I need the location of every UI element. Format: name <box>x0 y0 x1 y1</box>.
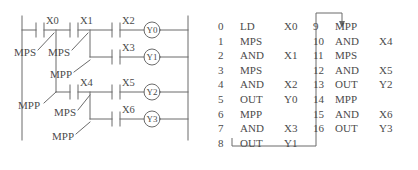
il-left-operand: Y0 <box>284 92 297 106</box>
leader-mpp-x0 <box>44 92 56 103</box>
il-left-operand: X0 <box>284 19 297 33</box>
il-right-opcode: AND <box>335 34 359 48</box>
il-left-operand: X2 <box>284 77 297 91</box>
il-right-opcode: MPP <box>335 19 357 33</box>
stack-label-mpp-x1: MPP <box>50 68 72 80</box>
il-right-opcode: OUT <box>335 77 358 91</box>
il-left-operand: X3 <box>284 121 297 135</box>
coil-label-y3: Y3 <box>147 114 158 124</box>
il-right-step-number: 9 <box>313 19 329 33</box>
leader-mps-x1 <box>72 33 88 50</box>
il-left-step-number: 8 <box>218 136 234 150</box>
il-right-step-number: 16 <box>313 121 329 135</box>
il-right-step-number: 12 <box>313 63 329 77</box>
il-right-operand: Y2 <box>379 77 392 91</box>
coil-label-y0: Y0 <box>147 25 158 35</box>
il-left-step-number: 5 <box>218 92 234 106</box>
contact-label-x1: X1 <box>80 15 93 26</box>
il-left-opcode: MPP <box>240 107 262 121</box>
contact-label-x2: X2 <box>122 15 135 26</box>
il-right-step-number: 15 <box>313 107 329 121</box>
il-left-opcode: MPS <box>240 63 262 77</box>
coil-label-y1: Y1 <box>147 52 158 62</box>
coil-label-y2: Y2 <box>147 87 158 97</box>
il-right-operand: X5 <box>379 63 392 77</box>
il-left-step-number: 0 <box>218 19 234 33</box>
il-left-operand: X1 <box>284 48 297 62</box>
ladder-diagram-figure: X0 X1 X2 X3 X4 X5 X6 Y0 Y1 Y2 Y3 MPS MPS… <box>0 0 418 170</box>
il-right-operand: X4 <box>379 34 392 48</box>
leader-mpp-x1 <box>74 60 90 72</box>
il-left-step-number: 7 <box>218 121 234 135</box>
contact-label-x0: X0 <box>46 15 59 26</box>
il-right-operand: X6 <box>379 107 392 121</box>
il-right-opcode: AND <box>335 63 359 77</box>
ladder-logic-diagram: X0 X1 X2 X3 X4 X5 X6 Y0 Y1 Y2 Y3 MPS MPS… <box>0 0 210 170</box>
stack-label-mpp-x0: MPP <box>18 99 40 111</box>
il-right-opcode: MPP <box>335 92 357 106</box>
il-left-step-number: 6 <box>218 107 234 121</box>
il-right-step-number: 11 <box>313 48 329 62</box>
il-right-step-number: 14 <box>313 92 329 106</box>
contact-label-x3: X3 <box>122 42 135 53</box>
il-right-step-number: 10 <box>313 34 329 48</box>
il-left-opcode: AND <box>240 48 264 62</box>
il-left-step-number: 1 <box>218 34 234 48</box>
il-left-opcode: OUT <box>240 136 263 150</box>
stack-label-mps-x0: MPS <box>14 46 36 58</box>
il-left-step-number: 2 <box>218 48 234 62</box>
stack-label-mpp-x4: MPP <box>52 130 74 142</box>
il-left-opcode: OUT <box>240 92 263 106</box>
il-right-step-number: 13 <box>313 77 329 91</box>
il-right-operand: Y3 <box>379 121 392 135</box>
leader-mps-x4 <box>78 95 90 110</box>
il-right-opcode: OUT <box>335 121 358 135</box>
il-left-opcode: AND <box>240 77 264 91</box>
il-left-opcode: AND <box>240 121 264 135</box>
il-left-opcode: MPS <box>240 34 262 48</box>
il-left-operand: Y1 <box>284 136 297 150</box>
contact-label-x5: X5 <box>122 77 135 88</box>
stack-label-mps-x1: MPS <box>48 46 70 58</box>
contact-label-x6: X6 <box>122 104 135 115</box>
il-left-opcode: LD <box>240 19 255 33</box>
il-right-opcode: AND <box>335 107 359 121</box>
leader-mpp-x4 <box>76 122 90 134</box>
il-right-opcode: MPS <box>335 48 357 62</box>
stack-label-mps-x4: MPS <box>54 106 76 118</box>
contact-label-x4: X4 <box>80 77 94 88</box>
il-left-step-number: 3 <box>218 63 234 77</box>
il-left-step-number: 4 <box>218 77 234 91</box>
